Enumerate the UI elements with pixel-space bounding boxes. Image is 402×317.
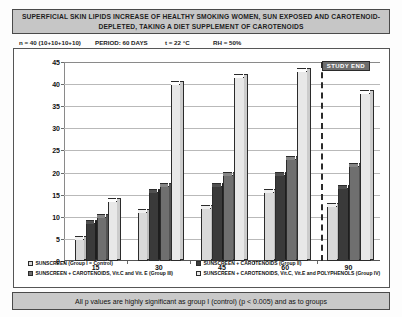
bar[interactable]: [138, 62, 149, 261]
bar-top-face: [286, 156, 295, 160]
bar-top-face: [297, 68, 306, 72]
period-label: PERIOD: 60 DAYS: [95, 39, 165, 46]
y-tick-label: 25: [38, 147, 60, 154]
chart-frame: % SUPERFICIAL SKIN LIPIDS INCREASE 05101…: [13, 48, 390, 288]
humidity-label: RH = 50%: [213, 39, 273, 46]
bar-side-face: [370, 90, 374, 260]
y-tick-label: 5: [38, 235, 60, 242]
bar-group-day-30: [138, 62, 182, 261]
bar-fill: [75, 239, 86, 261]
bar[interactable]: [97, 62, 108, 261]
bar-top-face: [160, 183, 169, 187]
page-title: SUPERFICIAL SKIN LIPIDS INCREASE OF HEAL…: [17, 12, 385, 31]
bar[interactable]: [108, 62, 119, 261]
bar-fill: [223, 175, 234, 261]
bar[interactable]: [264, 62, 275, 261]
y-tick-mark: [61, 84, 64, 85]
y-tick-label: 20: [38, 169, 60, 176]
bar-fill: [275, 175, 286, 261]
y-tick-mark: [61, 173, 64, 174]
bar-fill: [286, 159, 297, 261]
bar-top-face: [108, 198, 117, 202]
bar[interactable]: [286, 62, 297, 261]
y-tick-mark: [61, 62, 64, 63]
y-tick-label: 35: [38, 103, 60, 110]
bar-side-face: [307, 68, 311, 260]
bar-top-face: [201, 205, 210, 209]
bar-fill: [264, 192, 275, 261]
legend-label-series4: SUNSCREEN + CAROTENOIDS, Vit.C, Vit.E an…: [204, 270, 381, 277]
bar-fill: [212, 186, 223, 261]
bar[interactable]: [349, 62, 360, 261]
bar[interactable]: [234, 62, 245, 261]
legend-swatch-series1: [28, 261, 33, 266]
bar-top-face: [86, 220, 95, 224]
bar-side-face: [117, 198, 121, 260]
footer-note-banner: All p values are highly significant as g…: [12, 292, 390, 310]
legend-item[interactable]: SUNSCREEN (Group I = Control): [28, 260, 196, 270]
legend-label-series1: SUNSCREEN (Group I = Control): [36, 260, 113, 267]
y-tick-mark: [61, 150, 64, 151]
bar-top-face: [97, 214, 106, 218]
y-tick-label: 10: [38, 213, 60, 220]
bar[interactable]: [212, 62, 223, 261]
chart-page: SUPERFICIAL SKIN LIPIDS INCREASE OF HEAL…: [0, 0, 402, 317]
study-parameters: n = 40 (10+10+10+10) PERIOD: 60 DAYS t =…: [19, 37, 389, 47]
bar[interactable]: [360, 62, 371, 261]
legend-item[interactable]: SUNSCREEN + CAROTENOIDS, Vit.C, Vit.E an…: [196, 270, 376, 280]
bar-side-face: [244, 74, 248, 260]
bar-top-face: [149, 189, 158, 193]
bar-fill: [234, 77, 245, 261]
legend-swatch-series2: [196, 261, 201, 266]
legend-item[interactable]: SUNSCREEN + CAROTENOIDS (Group II): [196, 260, 376, 270]
bar-top-face: [138, 209, 147, 213]
bar[interactable]: [201, 62, 212, 261]
bar-fill: [149, 192, 160, 261]
bar-top-face: [234, 74, 243, 78]
legend-item[interactable]: SUNSCREEN + CAROTENOIDS, Vit.C and Vit. …: [28, 270, 196, 280]
y-tick-label: 30: [38, 125, 60, 132]
y-tick-label: 45: [38, 59, 60, 66]
bar[interactable]: [86, 62, 97, 261]
footer-note: All p values are highly significant as g…: [75, 298, 327, 305]
y-tick-label: 40: [38, 81, 60, 88]
bar-top-face: [360, 90, 369, 94]
legend-label-series3: SUNSCREEN + CAROTENOIDS, Vit.C and Vit. …: [36, 270, 173, 277]
bar[interactable]: [275, 62, 286, 261]
bar-top-face: [212, 183, 221, 187]
bar[interactable]: [75, 62, 86, 261]
legend-label-series2: SUNSCREEN + CAROTENOIDS (Group II): [204, 260, 302, 267]
bar[interactable]: [171, 62, 182, 261]
bar[interactable]: [338, 62, 349, 261]
legend-swatch-series3: [28, 271, 33, 276]
bar-top-face: [223, 172, 232, 176]
bar[interactable]: [297, 62, 308, 261]
bar-top-face: [349, 163, 358, 167]
bar-top-face: [171, 81, 180, 85]
bar-group-day-90: [327, 62, 371, 261]
y-tick-mark: [61, 195, 64, 196]
bar-fill: [201, 208, 212, 261]
bar-fill: [338, 188, 349, 261]
bar-top-face: [264, 189, 273, 193]
bar-fill: [360, 93, 371, 261]
bar-group-day-60: [264, 62, 308, 261]
bar-fill: [160, 186, 171, 261]
temperature-label: t = 22 °C: [165, 39, 213, 46]
bar[interactable]: [223, 62, 234, 261]
bar-fill: [297, 71, 308, 261]
bar-group-day-45: [201, 62, 245, 261]
bar-fill: [86, 223, 97, 261]
bar-fill: [327, 206, 338, 261]
bar[interactable]: [160, 62, 171, 261]
bar-fill: [171, 84, 182, 261]
bar-fill: [97, 217, 108, 261]
bar-fill: [138, 212, 149, 261]
bar[interactable]: [327, 62, 338, 261]
bar-top-face: [338, 185, 347, 189]
bar-fill: [108, 201, 119, 261]
y-tick-mark: [61, 128, 64, 129]
bar[interactable]: [149, 62, 160, 261]
y-tick-label: 15: [38, 191, 60, 198]
chart-title-banner: SUPERFICIAL SKIN LIPIDS INCREASE OF HEAL…: [12, 9, 390, 34]
